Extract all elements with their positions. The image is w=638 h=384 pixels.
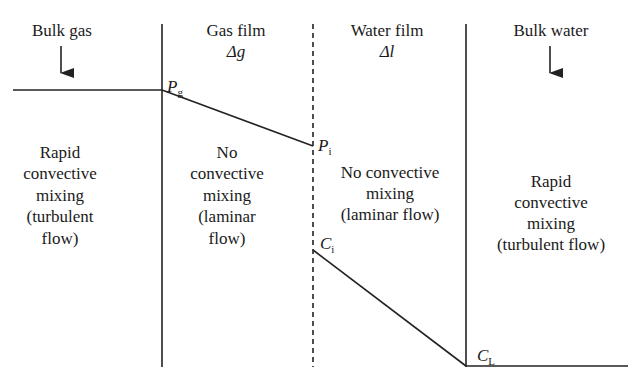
description-line: Rapid [531,172,572,191]
description-line: (laminar [198,207,256,226]
bulk-water-title: Bulk water [513,21,588,40]
description-line: Rapid [40,143,81,162]
description-line: mixing [527,214,576,233]
description-line: (turbulent flow) [497,235,605,254]
pg-label: Pg [166,77,183,98]
ci-label: Ci [320,234,334,255]
water-film-description: No convective mixing (laminar flow) [341,163,440,224]
bulk-gas-description: Rapid convective mixing (turbulent flow) [23,143,97,248]
description-line: convective [514,193,588,212]
description-line: mixing [366,184,415,203]
description-line: No [217,143,238,162]
pi-label: Pi [317,136,331,157]
description-line: mixing [203,186,252,205]
gas-film-description: No convective mixing (laminar flow) [190,143,264,248]
water-film-gradient-line [313,250,466,366]
water-film-thickness-label: Δl [379,42,395,61]
description-line: (turbulent [26,207,93,226]
description-line: (laminar flow) [341,205,440,224]
cl-label: CL [477,346,495,367]
bulk-gas-title: Bulk gas [32,21,92,40]
description-line: convective [190,164,264,183]
water-film-title: Water film [351,21,424,40]
bulk-water-description: Rapid convective mixing (turbulent flow) [497,172,605,254]
description-line: mixing [36,186,85,205]
two-film-theory-diagram: Bulk gas Gas film Δg Water film Δl Bulk … [0,0,638,384]
description-line: flow) [42,229,79,248]
gas-film-title: Gas film [206,21,265,40]
description-line: No convective [341,163,440,182]
gas-film-thickness-label: Δg [226,42,245,61]
description-line: convective [23,164,97,183]
gas-film-gradient-line [162,90,313,146]
description-line: flow) [209,229,246,248]
